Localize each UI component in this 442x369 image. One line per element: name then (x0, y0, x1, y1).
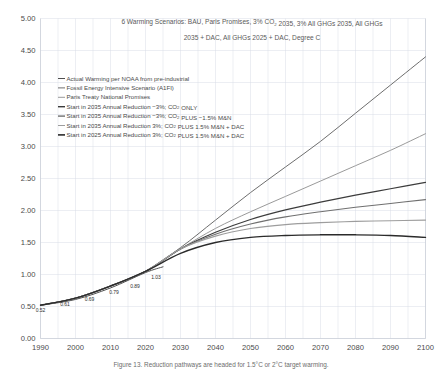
data-point-label: 0.61 (60, 301, 70, 307)
legend-item-label: Actual Warming per NOAA from pre-industr… (67, 74, 190, 81)
y-axis-tick-label: 5.00 (21, 14, 36, 23)
y-axis-tick-label: 3.00 (21, 142, 36, 151)
data-point-label: 1.03 (151, 274, 161, 280)
x-axis-tick-label: 2000 (67, 343, 84, 352)
data-point-label: 0.79 (109, 289, 119, 295)
y-axis-tick-label: 2.50 (21, 174, 36, 183)
data-point-label: 0.52 (36, 307, 46, 313)
figure-caption-text: Figure 13. Reduction pathways are headed… (113, 361, 328, 369)
legend-item-label: Fossil Energy Intensive Scenario (A1FI) (67, 84, 174, 91)
x-axis-tick-label: 2060 (277, 343, 294, 352)
y-axis-tick-label: 2.00 (21, 206, 36, 215)
figure-caption: Figure 13. Reduction pathways are headed… (113, 361, 328, 369)
x-axis-tick-label: 2050 (242, 343, 259, 352)
chart-title-line-2: 2035 + DAC, All GHGs 2025 + DAC, Degree … (184, 34, 321, 42)
x-axis-tick-label: 1990 (32, 343, 49, 352)
legend-item-label: Paris Treaty National Promises (67, 93, 151, 100)
y-axis-tick-label: 3.50 (21, 110, 36, 119)
x-axis-tick-label: 2070 (312, 343, 329, 352)
x-axis-tick-label: 2090 (382, 343, 399, 352)
chart-background (0, 0, 442, 369)
warming-scenarios-chart: 0.000.501.001.502.002.503.003.504.004.50… (0, 0, 442, 369)
y-axis-tick-label: 1.50 (21, 238, 36, 247)
x-axis-tick-label: 2100 (417, 343, 434, 352)
x-axis-tick-label: 2080 (347, 343, 364, 352)
x-axis-tick-label: 2040 (207, 343, 224, 352)
data-point-label: 0.69 (85, 296, 95, 302)
x-axis-tick-label: 2030 (172, 343, 189, 352)
data-point-label: 0.89 (130, 283, 140, 289)
chart-canvas: 0.000.501.001.502.002.503.003.504.004.50… (0, 0, 442, 369)
y-axis-tick-label: 1.00 (21, 270, 36, 279)
x-axis-tick-label: 2010 (102, 343, 119, 352)
y-axis-tick-label: 0.50 (21, 302, 36, 311)
y-axis-tick-label: 4.00 (21, 78, 36, 87)
y-axis-tick-label: 4.50 (21, 46, 36, 55)
x-axis-tick-label: 2020 (137, 343, 154, 352)
